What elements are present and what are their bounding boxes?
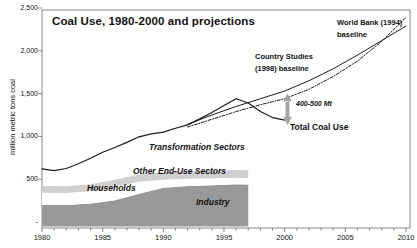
- country-studies-baseline-label-line1: Country Studies: [255, 51, 313, 63]
- gap-annotation-label: 400-500 Mt: [296, 100, 332, 107]
- total-coal-use-label: Total Coal Use: [290, 122, 348, 132]
- other-end-use-sectors-label: Other End-Use Sectors: [133, 166, 226, 176]
- x-tick-label-1985: 1985: [94, 233, 111, 242]
- series-line-total-coal-use: [42, 99, 285, 171]
- country-studies-baseline-label: Country Studies (1998) baseline: [255, 51, 313, 75]
- x-tick-label-2010: 2010: [398, 233, 415, 242]
- country-studies-baseline-label-line2: (1998) baseline: [255, 63, 313, 75]
- y-tick-label-2,500: 2,500: [0, 4, 38, 11]
- x-tick-label-1980: 1980: [34, 233, 51, 242]
- x-tick-label-1995: 1995: [216, 233, 233, 242]
- chart-title: Coal Use, 1980-2000 and projections: [52, 15, 255, 27]
- coal-use-chart-figure: Coal Use, 1980-2000 and projections mill…: [0, 0, 417, 248]
- transformation-sectors-label: Transformation Sectors: [149, 142, 245, 152]
- households-label: Households: [87, 183, 136, 193]
- y-tick-label-500: 500: [0, 175, 38, 182]
- world-bank-baseline-label: World Bank (1994) baseline: [337, 17, 402, 41]
- industry-label: Industry: [196, 197, 230, 207]
- x-tick-label-1990: 1990: [155, 233, 172, 242]
- x-tick-label-2005: 2005: [337, 233, 354, 242]
- y-tick-label-1,500: 1,500: [0, 90, 38, 97]
- world-bank-baseline-label-line2: baseline: [337, 29, 402, 41]
- x-tick-label-2000: 2000: [276, 233, 293, 242]
- y-tick-label-1,000: 1,000: [0, 132, 38, 139]
- y-tick-label--: -: [0, 218, 38, 225]
- y-tick-label-2,000: 2,000: [0, 47, 38, 54]
- world-bank-baseline-label-line1: World Bank (1994): [337, 17, 402, 29]
